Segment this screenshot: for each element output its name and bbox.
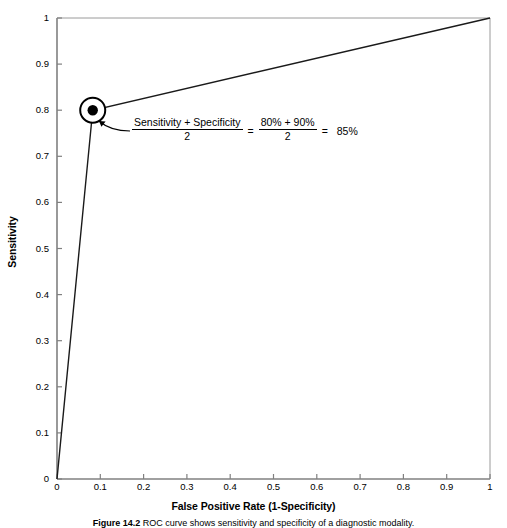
x-tick-label: 0.9 — [427, 481, 467, 492]
x-axis-title: False Positive Rate (1-Specificity) — [0, 500, 507, 512]
y-tick-label: 0.3 — [9, 335, 49, 347]
right-fraction: 80% + 90% 2 — [259, 117, 317, 143]
y-tick-label: 0.8 — [9, 104, 49, 116]
x-tick-label: 0.2 — [124, 481, 164, 492]
x-tick-label: 0.1 — [80, 481, 120, 492]
y-tick-label: 0.5 — [9, 243, 49, 255]
y-tick-label: 1 — [9, 12, 49, 24]
x-tick-label: 1 — [470, 481, 507, 492]
right-fraction-numerator: 80% + 90% — [259, 117, 317, 130]
optimal-cutoff-marker — [80, 98, 105, 123]
accuracy-result: 85% — [333, 125, 358, 137]
y-tick-label: 0.6 — [9, 196, 49, 208]
x-tick-label: 0.8 — [383, 481, 423, 492]
y-tick-label: 0.1 — [9, 427, 49, 439]
x-tick-label: 0.5 — [254, 481, 294, 492]
y-tick-label: 0 — [9, 473, 49, 485]
left-fraction: Sensitivity + Specificity 2 — [132, 117, 243, 143]
x-tick-label: 0.4 — [210, 481, 250, 492]
figure-caption-text: ROC curve shows sensitivity and specific… — [143, 518, 414, 528]
x-tick-label: 0.6 — [297, 481, 337, 492]
y-tick-label: 0.7 — [9, 150, 49, 162]
y-tick-label: 0.2 — [9, 381, 49, 393]
right-fraction-denominator: 2 — [285, 130, 291, 142]
figure-caption: Figure 14.2 ROC curve shows sensitivity … — [0, 518, 507, 528]
left-fraction-numerator: Sensitivity + Specificity — [132, 117, 243, 130]
x-tick-label: 0.7 — [340, 481, 380, 492]
left-fraction-denominator: 2 — [184, 130, 190, 142]
accuracy-formula-annotation: Sensitivity + Specificity 2 = 80% + 90% … — [132, 117, 358, 143]
y-tick-label: 0.9 — [9, 58, 49, 70]
equals-sign-1: = — [243, 125, 259, 137]
figure-caption-label: Figure 14.2 — [93, 518, 141, 528]
y-tick-label: 0.4 — [9, 289, 49, 301]
plot-frame — [57, 18, 490, 479]
roc-curve-line — [57, 18, 490, 479]
equals-sign-2: = — [317, 125, 333, 137]
annotation-arrow — [99, 121, 130, 131]
x-tick-label: 0.3 — [167, 481, 207, 492]
